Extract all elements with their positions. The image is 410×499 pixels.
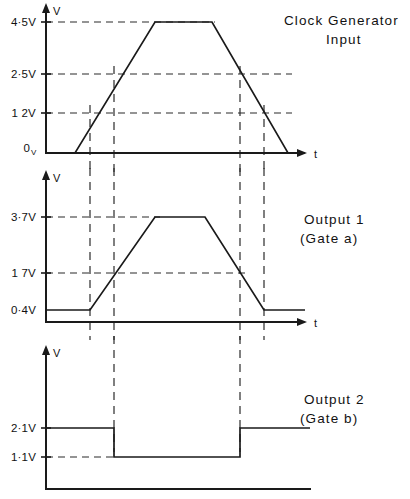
y-label-2p1v: 2·1V xyxy=(11,422,36,434)
caption-out2-line1: Output 2 xyxy=(304,392,365,407)
t-axis-label-out1: t xyxy=(314,317,317,329)
waveform-output-1 xyxy=(46,217,305,310)
t-axis-arrow-icon-out1 xyxy=(297,318,307,326)
t-axis-label-input: t xyxy=(314,148,317,160)
y-label-2p5v: 2·5V xyxy=(11,68,36,80)
waveform-input xyxy=(46,22,305,153)
y-label-0p4v: 0·4V xyxy=(11,304,36,316)
y-label-0v-subscript: V xyxy=(31,148,37,157)
y-label-1p7v: 1 7V xyxy=(12,267,37,279)
v-axis-arrow-icon xyxy=(42,3,50,13)
caption-input-line1: Clock Generator xyxy=(284,13,399,28)
y-label-4p5v: 4·5V xyxy=(11,16,36,28)
v-axis-label-out1: V xyxy=(53,172,61,184)
caption-out1-line2: (Gate a) xyxy=(300,231,358,246)
y-label-0v: 0 xyxy=(23,142,30,154)
caption-out1-line1: Output 1 xyxy=(304,212,365,227)
v-axis-label-input: V xyxy=(53,5,61,17)
waveform-output-2 xyxy=(46,428,310,457)
panel-output-1: 3·7V 1 7V 0·4V V t Output 1 (Gate a) xyxy=(11,168,365,340)
caption-out2-line2: (Gate b) xyxy=(300,411,358,426)
y-label-1p1v: 1·1V xyxy=(11,451,36,463)
axes-output-1 xyxy=(46,177,300,322)
y-label-1p2v: 1 2V xyxy=(12,107,37,119)
axes-input xyxy=(46,10,300,153)
v-axis-label-out2: V xyxy=(53,347,61,359)
v-axis-arrow-icon-out1 xyxy=(42,170,50,180)
caption-input-line2: Input xyxy=(326,32,362,47)
axes-output-2 xyxy=(46,352,310,489)
waveform-diagram: 4·5V 2·5V 1 2V 0 V V t Clock Generator I… xyxy=(0,0,410,499)
y-label-3p7v: 3·7V xyxy=(11,211,36,223)
panel-output-2: 2·1V 1·1V V Output 2 (Gate b) xyxy=(11,336,365,489)
v-axis-arrow-icon-out2 xyxy=(42,345,50,355)
panel-input: 4·5V 2·5V 1 2V 0 V V t Clock Generator I… xyxy=(11,3,399,172)
waveform-figure: 4·5V 2·5V 1 2V 0 V V t Clock Generator I… xyxy=(0,0,410,499)
